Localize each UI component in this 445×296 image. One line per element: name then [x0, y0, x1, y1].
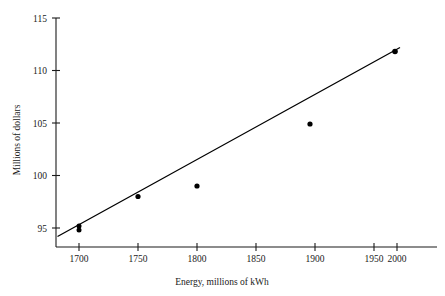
data-point — [194, 183, 199, 188]
x-axis-tick-labels: 1700 1750 1800 1850 1900 1950 2000 — [70, 254, 407, 264]
data-point — [77, 223, 82, 228]
y-tick-label: 115 — [33, 14, 47, 24]
chart-canvas: 115 110 105 100 95 1700 1750 1800 1850 1… — [0, 0, 445, 296]
x-tick-label: 1900 — [306, 254, 325, 264]
y-tick-label: 105 — [33, 119, 48, 129]
y-tick-label: 110 — [33, 66, 47, 76]
x-tick-label: 1750 — [129, 254, 148, 264]
data-point — [392, 49, 398, 55]
y-axis-title: Millions of dollars — [12, 104, 22, 175]
x-tick-label: 1850 — [247, 254, 266, 264]
x-tick-label: 1700 — [70, 254, 89, 264]
y-tick-label: 95 — [38, 224, 48, 234]
x-tick-label: 2000 — [388, 254, 407, 264]
regression-line — [58, 48, 401, 237]
data-point — [307, 121, 312, 126]
data-points-group — [77, 49, 398, 233]
y-axis-tick-labels: 115 110 105 100 95 — [33, 14, 48, 234]
data-point — [135, 194, 140, 199]
scatter-chart-figure: 115 110 105 100 95 1700 1750 1800 1850 1… — [0, 0, 445, 296]
y-tick-label: 100 — [33, 171, 48, 181]
x-tick-label: 1800 — [188, 254, 207, 264]
x-axis-title: Energy, millions of kWh — [175, 277, 269, 287]
x-tick-label: 1950 — [365, 254, 384, 264]
